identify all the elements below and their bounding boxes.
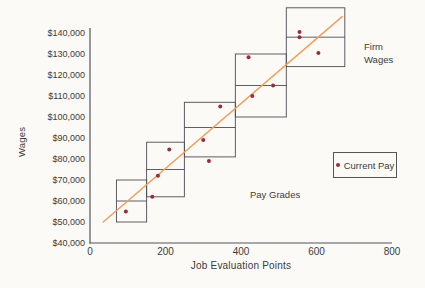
x-tick-label: 200 bbox=[157, 246, 174, 257]
y-tick-label: $80,000 bbox=[52, 154, 85, 164]
data-point bbox=[271, 84, 275, 88]
y-tick-label: $120,000 bbox=[47, 70, 85, 80]
y-tick-label: $90,000 bbox=[52, 133, 85, 143]
x-tick-label: 600 bbox=[308, 246, 325, 257]
data-point bbox=[298, 35, 302, 39]
data-point bbox=[201, 138, 205, 142]
pay-structure-chart: $40,000$50,000$60,000$70,000$80,000$90,0… bbox=[0, 0, 425, 288]
legend-current-pay: Current Pay bbox=[333, 152, 397, 178]
data-point bbox=[167, 148, 171, 152]
y-tick-label: $130,000 bbox=[47, 49, 85, 59]
y-tick-label: $40,000 bbox=[52, 238, 85, 248]
data-point bbox=[298, 30, 302, 34]
data-point bbox=[316, 51, 320, 55]
y-axis-title: Wages bbox=[16, 111, 28, 173]
y-tick-label: $140,000 bbox=[47, 28, 85, 38]
data-point bbox=[218, 105, 222, 109]
data-point bbox=[207, 159, 211, 163]
x-axis-title: Job Evaluation Points bbox=[141, 260, 341, 271]
x-tick-label: 800 bbox=[384, 246, 401, 257]
data-point bbox=[124, 210, 128, 214]
annotation-pay-grades: Pay Grades bbox=[250, 189, 300, 200]
data-point bbox=[156, 174, 160, 178]
legend-label: Current Pay bbox=[344, 160, 395, 171]
y-tick-label: $100,000 bbox=[47, 112, 85, 122]
data-point bbox=[150, 195, 154, 199]
y-tick-label: $110,000 bbox=[48, 91, 85, 101]
annotation-firm-wages: Firm Wages bbox=[364, 40, 410, 66]
y-tick-label: $50,000 bbox=[52, 217, 85, 227]
x-tick-label: 0 bbox=[87, 246, 93, 257]
y-tick-label: $70,000 bbox=[52, 175, 85, 185]
current-pay-dot-icon bbox=[336, 163, 340, 167]
data-point bbox=[247, 55, 251, 59]
pay-structure-figure: $40,000$50,000$60,000$70,000$80,000$90,0… bbox=[0, 0, 425, 288]
x-tick-label: 400 bbox=[233, 246, 250, 257]
data-point bbox=[250, 94, 254, 98]
y-tick-label: $60,000 bbox=[52, 196, 85, 206]
pay-policy-line bbox=[103, 17, 342, 222]
